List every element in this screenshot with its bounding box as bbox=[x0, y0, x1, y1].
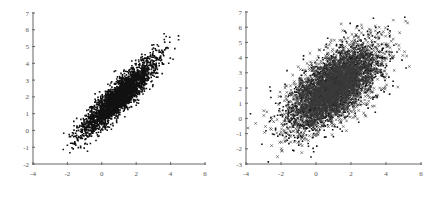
scatter-plot-left-canvas: -4-20246-2-101234567 bbox=[0, 0, 222, 197]
x-tick-label: 6 bbox=[203, 170, 207, 178]
scatter-plot-right: -4-20246-3-2-101234567 bbox=[222, 0, 445, 197]
y-tick-label: -1 bbox=[23, 144, 29, 152]
y-tick-label: 4 bbox=[26, 60, 30, 68]
y-tick-label: 7 bbox=[26, 10, 30, 18]
y-tick-label: 6 bbox=[239, 24, 243, 32]
y-tick-label: 0 bbox=[239, 115, 243, 123]
y-tick-label: 3 bbox=[26, 77, 30, 85]
x-tick-label: 4 bbox=[384, 170, 388, 178]
x-tick-label: 6 bbox=[419, 170, 423, 178]
y-tick-label: 1 bbox=[239, 100, 243, 108]
y-tick-label: -2 bbox=[23, 161, 29, 169]
y-tick-label: 3 bbox=[239, 69, 243, 77]
x-tick-label: -4 bbox=[243, 170, 249, 178]
y-tick-label: 2 bbox=[239, 85, 243, 93]
y-tick-label: 5 bbox=[26, 43, 30, 51]
x-tick-label: -2 bbox=[64, 170, 70, 178]
y-tick-label: 4 bbox=[239, 54, 243, 62]
scatter-plot-right-canvas: -4-20246-3-2-101234567 bbox=[222, 0, 445, 197]
scatter-plot-left: -4-20246-2-101234567 bbox=[0, 0, 222, 197]
x-tick-label: 0 bbox=[314, 170, 318, 178]
x-tick-label: 2 bbox=[134, 170, 138, 178]
scatter-points bbox=[63, 33, 180, 154]
y-tick-label: 2 bbox=[26, 93, 30, 101]
y-tick-label: 6 bbox=[26, 26, 30, 34]
x-tick-label: -2 bbox=[278, 170, 284, 178]
x-tick-label: 2 bbox=[349, 170, 353, 178]
x-tick-label: 0 bbox=[100, 170, 104, 178]
y-tick-label: 1 bbox=[26, 110, 30, 118]
x-tick-label: 4 bbox=[169, 170, 173, 178]
y-tick-label: -3 bbox=[236, 161, 242, 169]
scatter-points bbox=[247, 16, 411, 162]
y-tick-label: 7 bbox=[239, 9, 243, 17]
data-crosses bbox=[247, 19, 411, 158]
data-dots bbox=[63, 33, 180, 154]
y-tick-label: -1 bbox=[236, 130, 242, 138]
y-tick-label: -2 bbox=[236, 145, 242, 153]
y-tick-label: 0 bbox=[26, 127, 30, 135]
x-tick-label: -4 bbox=[30, 170, 36, 178]
y-tick-label: 5 bbox=[239, 39, 243, 47]
